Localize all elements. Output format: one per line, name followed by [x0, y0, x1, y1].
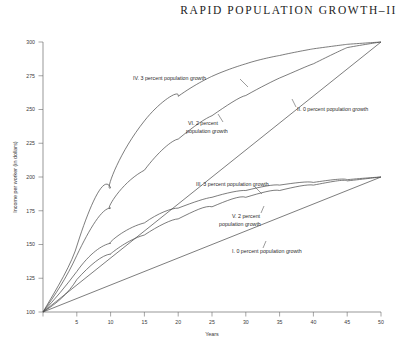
curve-series-ii: [43, 42, 381, 312]
annotation-label-i: I. 0 percent population growth: [232, 248, 302, 254]
ytick-label-225: 225: [26, 140, 35, 146]
ytick-label-175: 175: [26, 208, 35, 214]
xtick-label-50: 50: [378, 319, 384, 325]
xtick-label-30: 30: [243, 319, 249, 325]
axis-x: [43, 312, 381, 317]
xtick-label-15: 15: [142, 319, 148, 325]
annotation-label-v-line2: population growth: [219, 221, 261, 227]
ytick-label-125: 125: [26, 275, 35, 281]
annotation-label-iv: IV. 3 percent population growth: [133, 75, 206, 81]
xtick-label-10: 10: [108, 319, 114, 325]
xtick-label-5: 5: [75, 319, 78, 325]
x-axis-title: Years: [205, 331, 219, 337]
annotation-label-v-line1: V. 2 percent: [232, 213, 261, 219]
ytick-label-150: 150: [26, 241, 35, 247]
annotation-label-vi-line2: population growth: [186, 128, 228, 134]
annotation-label-iii: III. 3 percent population growth: [196, 181, 269, 187]
xtick-label-40: 40: [311, 319, 317, 325]
annotation-label-vi-line1: VI. 2 percent: [188, 120, 219, 126]
ytick-label-300: 300: [26, 39, 35, 45]
ytick-label-250: 250: [26, 106, 35, 112]
annotation-label-ii: II. 0 percent population growth: [297, 106, 368, 112]
line-chart: 100 125 150 175 200 225 250 275 300 5 10…: [0, 0, 405, 349]
figure-container: RAPID POPULATION GROWTH–II: [0, 0, 405, 349]
xtick-label-25: 25: [209, 319, 215, 325]
ytick-label-100: 100: [26, 309, 35, 315]
xtick-label-35: 35: [277, 319, 283, 325]
xtick-label-20: 20: [175, 319, 181, 325]
axis-y: [39, 42, 44, 312]
xtick-label-45: 45: [344, 319, 350, 325]
ytick-label-275: 275: [26, 73, 35, 79]
ytick-label-200: 200: [26, 174, 35, 180]
y-axis-title: Income per worker (in dollars): [12, 141, 18, 213]
